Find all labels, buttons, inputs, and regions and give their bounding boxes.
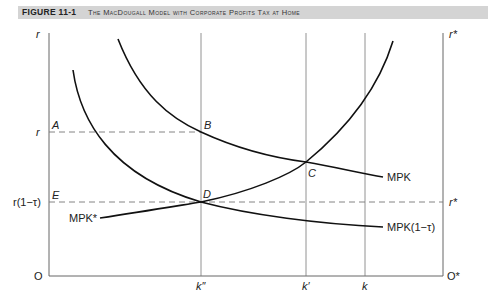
x-tick-k-prime: k′ — [302, 280, 311, 292]
y-tick-r-star: r* — [449, 196, 458, 208]
mpk-curve — [118, 39, 383, 177]
x-tick-k-double-prime: k″ — [196, 280, 207, 292]
right-axis-label: r* — [449, 28, 458, 40]
origin-right: O* — [447, 270, 461, 282]
point-a: A — [51, 119, 59, 131]
x-tick-k: k — [362, 280, 368, 292]
point-e: E — [52, 189, 60, 201]
left-axis-label: r — [36, 28, 41, 40]
y-tick-r: r — [36, 126, 41, 138]
macdougall-diagram: r r* O O* r r(1−τ) r* k″ k′ k A B C D E … — [0, 0, 488, 302]
origin-left: O — [34, 270, 43, 282]
mpk-label: MPK — [387, 171, 412, 183]
mpk-star-label: MPK* — [69, 212, 98, 224]
y-tick-r-tax: r(1−τ) — [13, 196, 41, 208]
mpk-tax-curve — [73, 70, 383, 227]
mpk-star-curve — [100, 41, 393, 218]
point-d: D — [203, 188, 211, 200]
point-c: C — [308, 167, 316, 179]
mpk-tax-label: MPK(1−τ) — [387, 221, 435, 233]
point-b: B — [204, 119, 211, 131]
